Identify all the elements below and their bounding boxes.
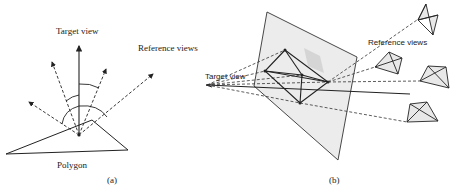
reference-camera-2 — [375, 52, 402, 74]
reference-views-label: Reference views — [138, 43, 198, 53]
polygon-label: Polygon — [57, 160, 88, 170]
reference-camera-1 — [418, 4, 438, 35]
target-view-label: Target view — [56, 26, 99, 36]
projection-plane — [254, 12, 357, 160]
figure-canvas: Target view Reference views Polygon (a) — [0, 0, 451, 187]
polygon-shape — [6, 120, 128, 154]
reference-view-arrows — [29, 62, 153, 135]
reference-views-label-b: Reference views — [368, 38, 427, 47]
reference-camera-3 — [420, 66, 449, 88]
panel-b: Target view Reference views (b) — [205, 4, 449, 185]
caption-a: (a) — [107, 175, 117, 185]
target-view-label-b: Target view — [205, 72, 246, 81]
caption-b: (b) — [329, 175, 340, 185]
reference-camera-4 — [407, 102, 438, 122]
panel-a: Target view Reference views Polygon (a) — [6, 26, 198, 185]
